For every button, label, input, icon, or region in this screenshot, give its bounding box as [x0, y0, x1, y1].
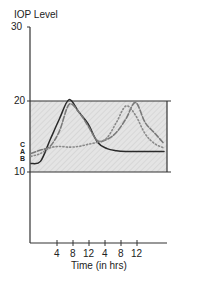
x-tick-label: 12 [83, 249, 94, 259]
x-tick-label: 8 [118, 249, 124, 259]
x-tick-label: 4 [102, 249, 108, 259]
y-tick-label-10: 10 [14, 167, 25, 177]
x-tick-label: 8 [70, 249, 76, 259]
y-tick-label-30: 30 [11, 22, 22, 32]
legend-label-c: C [20, 141, 25, 148]
y-tick-label-20: 20 [14, 96, 25, 106]
x-tick-label: 12 [131, 249, 142, 259]
y-axis-title: IOP Level [14, 10, 58, 20]
legend-label-a: A [20, 148, 25, 155]
iop-chart [0, 0, 211, 284]
x-axis-title: Time (in hrs) [71, 261, 127, 271]
legend-label-b: B [20, 155, 25, 162]
x-tick-label: 4 [54, 249, 60, 259]
